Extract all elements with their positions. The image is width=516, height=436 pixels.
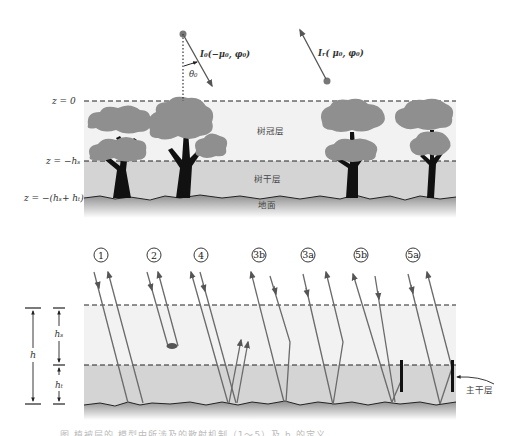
reflected-ray: Iᵣ( μ₀, φ₀) (300, 30, 364, 85)
canopy-layer-region-bottom (84, 305, 456, 365)
svg-text:2: 2 (151, 250, 157, 261)
mechanism-label-4: 4 (194, 248, 208, 262)
trunk-bar-5a (451, 360, 454, 392)
trunk-bar-5b (400, 360, 403, 392)
height-dimension-h: h (25, 308, 41, 404)
z-hs-ht-label: z = −(hₛ+ hₜ) (23, 193, 84, 203)
leaf-scatterer (167, 343, 178, 349)
main-trunk-label: 主干层 (466, 385, 493, 395)
canopy-model-diagram: 树冠层 树干层 地面 z = 0 z = −hₛ z = −(hₛ+ hₜ) θ… (23, 30, 456, 218)
reflected-intensity-label: Iᵣ( μ₀, φ₀) (317, 48, 364, 59)
z-hs-label: z = −hₛ (45, 156, 80, 166)
scattering-diagram: 树冠层 树干层 地面 z = 0 z = −hₛ z = −(hₛ+ hₜ) θ… (0, 0, 516, 436)
svg-text:3a: 3a (302, 249, 314, 260)
z0-label: z = 0 (51, 96, 76, 106)
mechanism-label-1: 1 (94, 248, 108, 262)
mechanism-label-2: 2 (147, 248, 161, 262)
total-height-label: h (30, 349, 36, 360)
mechanism-label-5a: 5a (406, 248, 420, 262)
svg-text:4: 4 (198, 250, 204, 261)
svg-text:3b: 3b (253, 249, 265, 260)
height-dimension-ht: hₜ (53, 368, 65, 404)
trunk-height-label: hₜ (55, 380, 64, 390)
theta0-label: θ₀ (189, 69, 198, 79)
svg-text:5b: 5b (355, 249, 367, 260)
canopy-layer-label: 树冠层 (257, 126, 284, 136)
ground-label: 地面 (258, 200, 276, 210)
mechanism-label-5b: 5b (354, 248, 368, 262)
scattering-mechanisms-diagram: 1 2 4 3b 3a 5b 5a (25, 248, 494, 420)
mechanism-label-3b: 3b (252, 248, 266, 262)
figure-caption: 图 植被层的 模型中所涉及的散射机制（1～5）及 h 的定义 (60, 428, 480, 436)
mechanism-label-3a: 3a (301, 248, 315, 262)
incident-ray: θ₀ I₀(−μ₀, φ₀) (180, 31, 251, 102)
main-trunk-pointer-icon (457, 377, 494, 384)
incident-intensity-label: I₀(−μ₀, φ₀) (199, 49, 250, 60)
receiver-point-icon (324, 78, 331, 85)
trunk-layer-label: 树干层 (254, 174, 281, 184)
canopy-height-label: hₛ (55, 329, 64, 339)
height-dimension-hs: hₛ (53, 308, 65, 365)
svg-text:1: 1 (98, 250, 104, 261)
svg-text:5a: 5a (407, 249, 419, 260)
